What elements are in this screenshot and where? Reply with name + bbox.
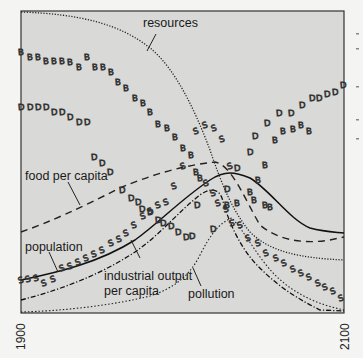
marker-b: B [27, 52, 34, 62]
marker-b: B [18, 47, 25, 57]
marker-b: B [180, 143, 187, 153]
label-population: population [25, 240, 83, 254]
label-food-per-capita: food per capita [25, 169, 108, 183]
marker-b: B [155, 119, 162, 129]
marker-b: B [234, 198, 241, 208]
marker-b: B [35, 52, 42, 62]
marker-b: B [132, 93, 139, 103]
marker-b: B [255, 175, 262, 185]
marker-b: B [267, 202, 274, 212]
marker-b: B [290, 124, 297, 134]
marker-b: B [147, 107, 154, 117]
marker-b: B [262, 160, 269, 170]
marker-b: B [164, 123, 171, 133]
marker-b: B [298, 120, 305, 130]
marker-b: B [251, 195, 258, 205]
marker-b: B [59, 56, 66, 66]
marker-b: B [272, 135, 279, 145]
x-tick-2100: 2100 [338, 323, 352, 350]
world-model-chart: BBBBBBBBBBBBBBBBBBBBBBBBBBBBBBBBBBBBB DD… [0, 0, 363, 358]
label-pollution: pollution [188, 287, 235, 301]
marker-b: B [123, 83, 130, 93]
marker-b: B [92, 62, 99, 72]
marker-b: B [172, 132, 179, 142]
label-industrial-output-line2: per capita [104, 284, 159, 298]
marker-d: D [340, 80, 348, 91]
label-resources: resources [143, 16, 198, 30]
marker-b: B [76, 62, 83, 72]
marker-b: B [306, 126, 313, 136]
marker-b: B [280, 126, 287, 136]
marker-b: B [84, 52, 91, 62]
marker-b: B [115, 77, 122, 87]
label-industrial-output-line1: industrial output [104, 269, 193, 283]
marker-b: B [100, 62, 107, 72]
marker-b: B [43, 56, 50, 66]
marker-b: B [51, 56, 58, 66]
marker-b: B [140, 98, 147, 108]
x-tick-1900: 1900 [14, 323, 28, 350]
marker-b: B [188, 150, 195, 160]
marker-b: B [67, 57, 74, 67]
marker-b: B [108, 67, 115, 77]
page-bleed-marks [356, 33, 359, 140]
